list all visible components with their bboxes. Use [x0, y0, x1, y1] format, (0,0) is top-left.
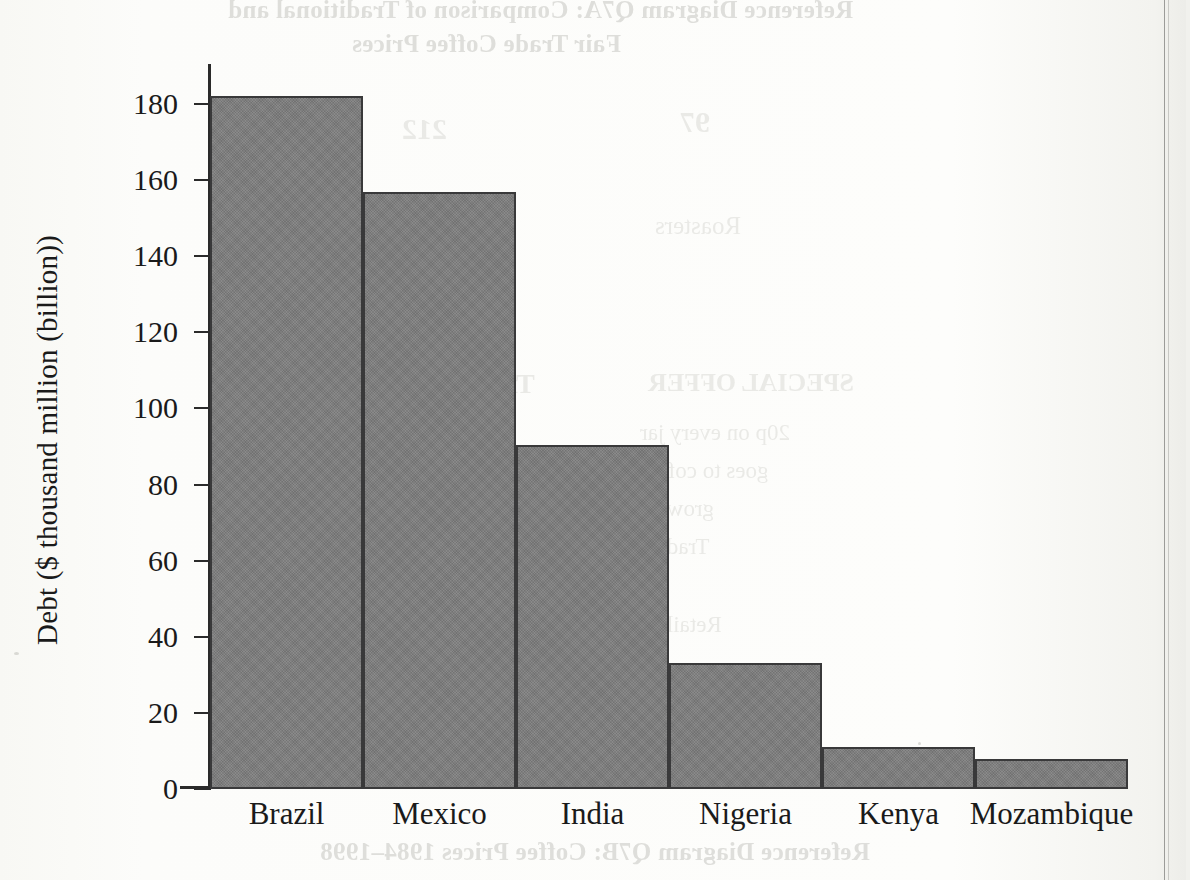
- page-edge-line: [1164, 0, 1165, 880]
- y-tick-mark-40: [194, 636, 209, 638]
- y-tick-label-20: 20: [88, 698, 178, 728]
- page-edge-line-outer: [1168, 0, 1169, 880]
- y-axis-title: Debt ($ thousand million (billion)): [18, 0, 76, 880]
- x-tick-label-nigeria: Nigeria: [699, 798, 792, 829]
- y-tick-mark-100: [194, 407, 209, 409]
- x-tick-label-india: India: [561, 798, 625, 829]
- y-tick-label-0: 0: [88, 774, 178, 804]
- bar-mozambique[interactable]: [975, 759, 1128, 789]
- y-tick-label-160: 160: [88, 165, 178, 195]
- scanned-page: Reference Diagram Q7A: Comparison of Tra…: [0, 0, 1190, 880]
- y-tick-label-40: 40: [88, 622, 178, 652]
- y-tick-label-180: 180: [88, 89, 178, 119]
- y-tick-mark-0: [194, 788, 209, 790]
- y-tick-label-140: 140: [88, 241, 178, 271]
- bar-kenya[interactable]: [822, 747, 975, 789]
- y-tick-label-60: 60: [88, 546, 178, 576]
- y-tick-mark-20: [194, 712, 209, 714]
- y-tick-mark-180: [194, 103, 209, 105]
- x-tick-label-brazil: Brazil: [249, 798, 325, 829]
- bar-chart: Debt ($ thousand million (billion)) 0 20…: [0, 0, 1190, 880]
- x-tick-label-mozambique: Mozambique: [970, 798, 1134, 829]
- bar-india[interactable]: [516, 445, 669, 789]
- page-margin-strip: [1186, 0, 1190, 880]
- x-tick-label-mexico: Mexico: [392, 798, 487, 829]
- bar-mexico[interactable]: [363, 192, 516, 789]
- bar-brazil[interactable]: [210, 96, 363, 789]
- y-tick-label-80: 80: [88, 470, 178, 500]
- y-tick-label-120: 120: [88, 317, 178, 347]
- y-tick-mark-120: [194, 331, 209, 333]
- bar-nigeria[interactable]: [669, 663, 822, 789]
- y-tick-mark-140: [194, 255, 209, 257]
- x-tick-label-kenya: Kenya: [858, 798, 939, 829]
- y-tick-mark-60: [194, 560, 209, 562]
- y-tick-mark-160: [194, 179, 209, 181]
- y-tick-mark-80: [194, 484, 209, 486]
- y-tick-label-100: 100: [88, 393, 178, 423]
